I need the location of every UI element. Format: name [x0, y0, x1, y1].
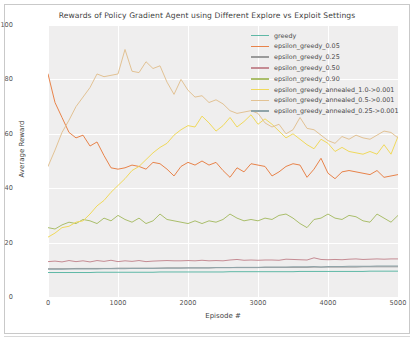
series-line	[48, 258, 398, 262]
legend-item[interactable]: epsilon_greedy_0.05	[251, 42, 398, 51]
legend-swatch	[251, 100, 269, 102]
legend-label: greedy	[274, 32, 296, 40]
legend-item[interactable]: greedy	[251, 31, 398, 40]
x-tick-label: 5000	[378, 299, 416, 307]
legend-item[interactable]: epsilon_greedy_0.50	[251, 63, 398, 72]
chart-title: Rewards of Policy Gradient Agent using D…	[5, 11, 409, 20]
y-tick-label: 80	[0, 75, 13, 83]
x-axis-label: Episode #	[48, 312, 398, 320]
x-tick-label: 4000	[308, 299, 348, 307]
legend-swatch	[251, 56, 269, 58]
y-tick-label: 20	[0, 239, 13, 247]
legend-label: epsilon_greedy_0.50	[274, 64, 340, 72]
legend-label: epsilon_greedy_annealed_0.25->0.001	[274, 107, 398, 115]
bottom-divider	[4, 336, 410, 337]
legend-label: epsilon_greedy_0.90	[274, 75, 340, 83]
x-tick-label: 3000	[238, 299, 278, 307]
legend-item[interactable]: epsilon_greedy_annealed_1.0->0.001	[251, 85, 398, 94]
series-line	[48, 271, 398, 272]
legend-swatch	[251, 110, 269, 112]
legend-swatch	[251, 35, 269, 37]
legend-label: epsilon_greedy_annealed_1.0->0.001	[274, 86, 394, 94]
y-tick-label: 0	[0, 293, 13, 301]
legend-label: epsilon_greedy_annealed_0.5->0.001	[274, 96, 394, 104]
legend-label: epsilon_greedy_0.05	[274, 42, 340, 50]
x-tick-label: 2000	[168, 299, 208, 307]
legend-label: epsilon_greedy_0.25	[274, 53, 340, 61]
legend-swatch	[251, 78, 269, 80]
legend-item[interactable]: epsilon_greedy_annealed_0.5->0.001	[251, 96, 398, 105]
figure-frame: Rewards of Policy Gradient Agent using D…	[4, 4, 410, 334]
y-tick-label: 60	[0, 130, 13, 138]
series-line	[48, 115, 398, 237]
y-tick-label: 40	[0, 184, 13, 192]
y-tick-label: 100	[0, 21, 13, 29]
series-line	[48, 214, 398, 229]
legend-swatch	[251, 89, 269, 91]
x-tick-label: 1000	[98, 299, 138, 307]
legend-swatch	[251, 67, 269, 69]
legend-item[interactable]: epsilon_greedy_0.25	[251, 53, 398, 62]
legend-item[interactable]: epsilon_greedy_annealed_0.25->0.001	[251, 106, 398, 115]
gridline-horizontal	[48, 297, 398, 298]
series-line	[48, 266, 398, 269]
chart-legend: greedyepsilon_greedy_0.05epsilon_greedy_…	[251, 31, 398, 116]
legend-item[interactable]: epsilon_greedy_0.90	[251, 74, 398, 83]
legend-swatch	[251, 46, 269, 48]
y-axis-label: Average Reward	[18, 89, 26, 209]
x-tick-label: 0	[28, 299, 68, 307]
